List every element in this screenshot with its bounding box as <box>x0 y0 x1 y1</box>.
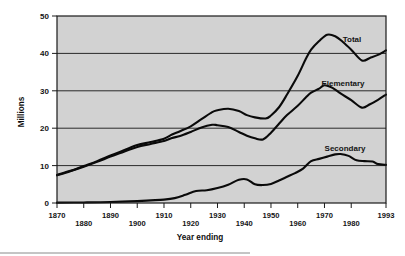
y-tick-label: 40 <box>40 49 49 58</box>
x-tick-label: 1890 <box>102 211 119 220</box>
x-tick-label: 1980 <box>343 219 360 228</box>
x-tick-label: 1970 <box>316 211 333 220</box>
y-tick-label: 0 <box>45 199 50 208</box>
y-tick-label: 50 <box>40 12 49 21</box>
enrollment-line-chart: 01020304050 1870188018901900191019201930… <box>0 0 405 256</box>
y-tick-label: 30 <box>40 87 49 96</box>
x-tick-label: 1920 <box>182 219 199 228</box>
y-tick-label: 20 <box>40 124 49 133</box>
x-tick-label: 1900 <box>129 219 146 228</box>
x-tick-label: 1950 <box>263 211 280 220</box>
x-axis-title: Year ending <box>177 233 223 242</box>
y-axis-title: Millions <box>17 96 26 127</box>
x-tick-label: 1910 <box>156 211 173 220</box>
x-tick-label: 1930 <box>209 211 226 220</box>
x-tick-label: 1880 <box>75 219 92 228</box>
chart-container: 01020304050 1870188018901900191019201930… <box>0 0 405 256</box>
x-tick-label: 1993 <box>378 211 395 220</box>
series-label-secondary: Secondary <box>325 144 366 153</box>
x-tick-label: 1870 <box>49 211 66 220</box>
series-label-elementary: Elementary <box>321 79 365 88</box>
y-tick-label: 10 <box>40 162 49 171</box>
x-tick-label: 1960 <box>289 219 306 228</box>
x-tick-label: 1940 <box>236 219 253 228</box>
series-label-total: Total <box>343 35 362 44</box>
